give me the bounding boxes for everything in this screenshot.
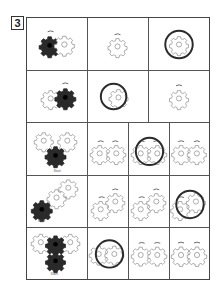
option-cell-4a[interactable] bbox=[88, 176, 129, 228]
option-cell-4b[interactable] bbox=[129, 176, 170, 228]
gear-pair-icon bbox=[170, 123, 209, 175]
gear-pair-icon bbox=[170, 228, 209, 279]
gear-pair-icon bbox=[88, 123, 128, 175]
start-label: Start bbox=[54, 169, 61, 173]
example-cell-5: Start bbox=[27, 228, 88, 279]
option-cell-1a[interactable] bbox=[88, 18, 149, 71]
option-cell-3b[interactable] bbox=[129, 123, 170, 176]
gear-icon-circled bbox=[149, 18, 209, 70]
gear-icon bbox=[88, 18, 148, 70]
gear-pair-icon bbox=[27, 18, 87, 70]
gear-pair-icon bbox=[27, 71, 87, 122]
option-cell-5b[interactable] bbox=[129, 228, 170, 279]
start-label: Start bbox=[51, 272, 58, 276]
gear-pair-icon-circled bbox=[88, 228, 128, 279]
example-cell-4: Start bbox=[27, 176, 88, 228]
gear-triple-icon: Start bbox=[27, 123, 87, 175]
option-cell-5c[interactable] bbox=[170, 228, 209, 279]
option-cell-2b[interactable] bbox=[149, 71, 209, 123]
gear-triple-icon: Start bbox=[27, 176, 87, 227]
gear-pair-icon bbox=[129, 176, 169, 227]
option-cell-3a[interactable] bbox=[88, 123, 129, 176]
gear-pair-icon bbox=[88, 176, 128, 227]
gear-pair-icon-circled bbox=[170, 176, 209, 227]
gear-pair-icon-circled bbox=[129, 123, 169, 175]
example-cell-3: Start bbox=[27, 123, 88, 176]
gear-icon-circled bbox=[88, 71, 148, 122]
option-cell-4c[interactable] bbox=[170, 176, 209, 228]
gear-quad-icon: Start bbox=[27, 228, 87, 279]
option-cell-2a[interactable] bbox=[88, 71, 149, 123]
option-cell-3c[interactable] bbox=[170, 123, 209, 176]
example-cell-1 bbox=[27, 18, 88, 71]
start-label: Start bbox=[38, 219, 45, 223]
option-cell-5a[interactable] bbox=[88, 228, 129, 279]
option-cell-1b[interactable] bbox=[149, 18, 209, 71]
gear-icon bbox=[149, 71, 209, 122]
puzzle-number: 3 bbox=[11, 16, 24, 30]
example-cell-2 bbox=[27, 71, 88, 123]
puzzle-grid: Start Start bbox=[26, 17, 210, 280]
gear-pair-icon bbox=[129, 228, 169, 279]
